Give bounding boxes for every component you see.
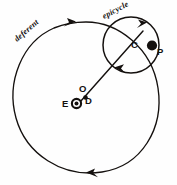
point-e-label: E bbox=[62, 98, 68, 109]
deferent-arrow-top-icon bbox=[64, 18, 76, 26]
point-d-label: D bbox=[85, 95, 92, 106]
epicycle-deferent-diagram: C P O D E deferent epicycle bbox=[0, 0, 177, 185]
point-c-label: C bbox=[131, 39, 138, 50]
point-e-earth-core-icon bbox=[75, 102, 79, 106]
point-p-dot bbox=[147, 40, 157, 50]
point-o-label: O bbox=[79, 83, 86, 94]
point-p-label: P bbox=[157, 46, 164, 57]
figure-canvas: C P O D E deferent epicycle bbox=[0, 0, 177, 185]
